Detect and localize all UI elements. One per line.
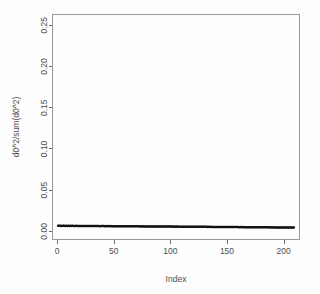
y-tick-label: 0.25: [39, 17, 49, 34]
plot-frame-box: [53, 15, 300, 240]
x-tick-label: 100: [163, 246, 177, 256]
plot-figure: 0.000.050.100.150.200.25 050100150200 In…: [0, 0, 320, 294]
y-tick-label: 0.00: [39, 223, 49, 240]
x-tick-label: 0: [55, 246, 60, 256]
y-tick-label: 0.15: [39, 99, 49, 116]
x-tick-label: 200: [277, 246, 291, 256]
scatter-plot-canvas: 0.000.050.100.150.200.25 050100150200 In…: [0, 0, 320, 294]
data-point: [293, 226, 296, 229]
x-axis-ticks: 050100150200: [55, 240, 291, 256]
x-tick-label: 50: [109, 246, 119, 256]
y-tick-label: 0.05: [39, 182, 49, 199]
data-series-points: [57, 224, 295, 228]
y-tick-label: 0.10: [39, 140, 49, 157]
y-tick-label: 0.20: [39, 58, 49, 75]
x-tick-label: 150: [220, 246, 234, 256]
y-axis-title: d0^2/sum(d0^2): [11, 97, 21, 158]
x-axis-title: Index: [166, 274, 188, 284]
y-axis-ticks: 0.000.050.100.150.200.25: [39, 17, 53, 240]
